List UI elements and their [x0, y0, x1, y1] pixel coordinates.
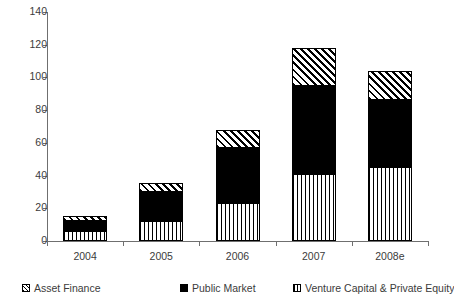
- bar-segment: [292, 86, 336, 174]
- legend-swatch-icon: [180, 284, 188, 292]
- x-axis-tick: [352, 241, 353, 246]
- y-axis-tick-label: 20: [13, 202, 47, 212]
- legend-item: Asset Finance: [22, 281, 101, 295]
- bar-segment: [63, 221, 107, 231]
- y-axis-tick-label: 0: [13, 235, 47, 245]
- bar-segment: [368, 100, 412, 166]
- legend-swatch-icon: [22, 284, 30, 292]
- y-axis-tick-label: 100: [13, 71, 47, 81]
- y-axis-tick-label: 40: [13, 170, 47, 180]
- legend-label: Asset Finance: [34, 283, 101, 294]
- y-axis-tick-label: 120: [13, 39, 47, 49]
- x-axis-tick: [47, 241, 48, 246]
- bar-segment: [292, 174, 336, 241]
- x-axis-label-2005: 2005: [123, 250, 199, 262]
- legend-label: Public Market: [192, 283, 256, 294]
- bar-segment: [139, 192, 183, 221]
- bar-segment: [139, 221, 183, 241]
- x-axis-tick: [123, 241, 124, 246]
- bar-2007: [292, 12, 336, 241]
- y-axis-tick-label: 60: [13, 137, 47, 147]
- y-axis-tick-label: 140: [13, 6, 47, 16]
- legend-swatch-icon: [293, 284, 301, 292]
- bar-segment: [216, 148, 260, 204]
- x-axis-tick: [199, 241, 200, 246]
- bar-segment: [216, 130, 260, 148]
- bar-2006: [216, 12, 260, 241]
- x-axis-tick: [276, 241, 277, 246]
- bar-segment: [368, 71, 412, 100]
- bar-2008e: [368, 12, 412, 241]
- bar-segment: [216, 203, 260, 241]
- legend-item: Public Market: [180, 281, 256, 295]
- x-axis-label-2004: 2004: [47, 250, 123, 262]
- bar-2004: [63, 12, 107, 241]
- bar-segment: [139, 183, 183, 192]
- legend-item: Venture Capital & Private Equity: [293, 281, 454, 295]
- x-axis-tick: [428, 241, 429, 246]
- chart-legend: Asset FinancePublic MarketVenture Capita…: [0, 281, 442, 297]
- y-axis-tick-label: 80: [13, 104, 47, 114]
- x-axis-line: [47, 241, 428, 242]
- plot-area: [47, 12, 428, 241]
- bar-segment: [63, 216, 107, 221]
- x-axis-label-2007: 2007: [276, 250, 352, 262]
- bar-segment: [292, 48, 336, 86]
- x-axis-label-2006: 2006: [199, 250, 275, 262]
- bar-2005: [139, 12, 183, 241]
- bar-segment: [63, 231, 107, 241]
- x-axis-label-2008e: 2008e: [352, 250, 428, 262]
- bar-segment: [368, 167, 412, 241]
- legend-label: Venture Capital & Private Equity: [305, 283, 454, 294]
